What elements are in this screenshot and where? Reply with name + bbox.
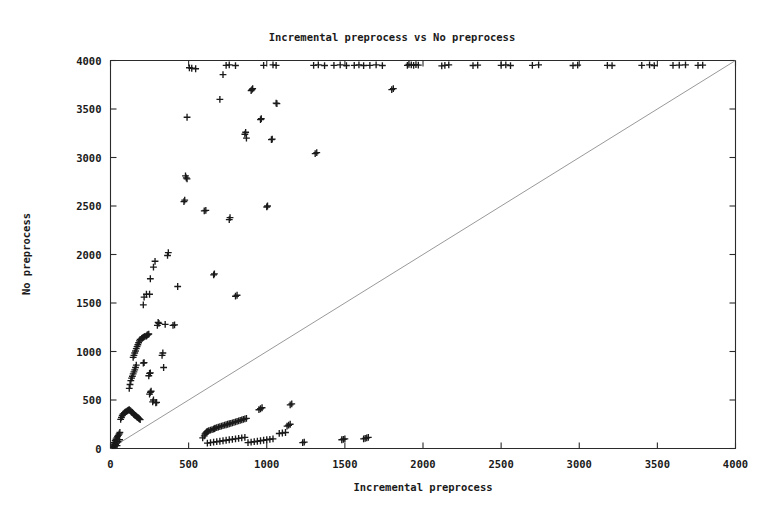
y-tick-label: 3500	[76, 103, 101, 115]
y-tick-label: 1500	[76, 297, 101, 309]
y-axis-title: No preprocess	[20, 213, 32, 295]
x-axis-title: Incremental preprocess	[353, 481, 492, 493]
data-points	[109, 61, 706, 451]
chart-title: Incremental preprocess vs No preprocess	[269, 31, 516, 43]
scatter-plot: Incremental preprocess vs No preprocess …	[0, 0, 784, 510]
y-tick-label: 3000	[76, 152, 101, 164]
y-tick-label: 2500	[76, 200, 101, 212]
diagonal-reference-line	[111, 61, 736, 449]
y-tick-label: 2000	[76, 249, 101, 261]
x-tick-label: 1500	[332, 458, 357, 470]
x-tick-label: 0	[107, 458, 113, 470]
x-tick-label: 3500	[645, 458, 670, 470]
chart-container: Incremental preprocess vs No preprocess …	[0, 0, 784, 510]
x-tick-label: 2000	[410, 458, 435, 470]
y-tick-label: 500	[83, 394, 102, 406]
x-tick-label: 1000	[254, 458, 279, 470]
x-tick-label: 3000	[567, 458, 592, 470]
x-tick-label: 500	[179, 458, 198, 470]
x-tick-label: 4000	[723, 458, 748, 470]
y-tick-label: 0	[95, 443, 101, 455]
reference-line	[111, 61, 736, 449]
y-tick-label: 1000	[76, 346, 101, 358]
y-tick-label: 4000	[76, 55, 101, 67]
x-tick-label: 2500	[488, 458, 513, 470]
